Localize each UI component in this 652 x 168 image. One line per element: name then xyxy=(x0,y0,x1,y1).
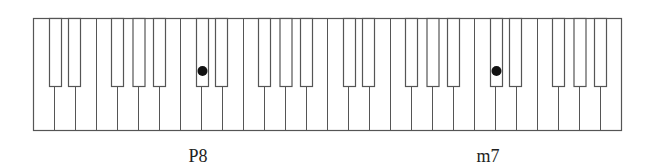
black-key-g-sharp-1 xyxy=(133,19,145,87)
marker-dot-m7 xyxy=(492,66,502,76)
black-key-a-sharp-3 xyxy=(448,19,460,87)
interval-label-p8: P8 xyxy=(188,146,207,166)
black-key-d-sharp-1 xyxy=(69,19,81,87)
black-key-c-sharp-3 xyxy=(344,19,356,87)
black-key-f-sharp-3 xyxy=(406,19,418,87)
black-key-g-sharp-3 xyxy=(427,19,439,87)
marker-dot-p8 xyxy=(198,66,208,76)
piano-keyboard xyxy=(0,0,652,168)
interval-label-m7: m7 xyxy=(476,146,499,166)
black-key-g-sharp-4 xyxy=(574,19,586,87)
black-key-d-sharp-4 xyxy=(510,19,522,87)
black-key-d-sharp-2 xyxy=(216,19,228,87)
black-key-f-sharp-4 xyxy=(553,19,565,87)
black-key-c-sharp-4 xyxy=(491,19,503,87)
black-key-c-sharp-1 xyxy=(50,19,62,87)
black-key-a-sharp-1 xyxy=(154,19,166,87)
black-key-c-sharp-2 xyxy=(197,19,209,87)
black-key-f-sharp-1 xyxy=(112,19,124,87)
interval-diagram: P8 m7 xyxy=(0,0,652,168)
black-key-g-sharp-2 xyxy=(280,19,292,87)
black-key-a-sharp-2 xyxy=(301,19,313,87)
black-key-d-sharp-3 xyxy=(363,19,375,87)
black-key-a-sharp-4 xyxy=(595,19,607,87)
black-key-f-sharp-2 xyxy=(259,19,271,87)
